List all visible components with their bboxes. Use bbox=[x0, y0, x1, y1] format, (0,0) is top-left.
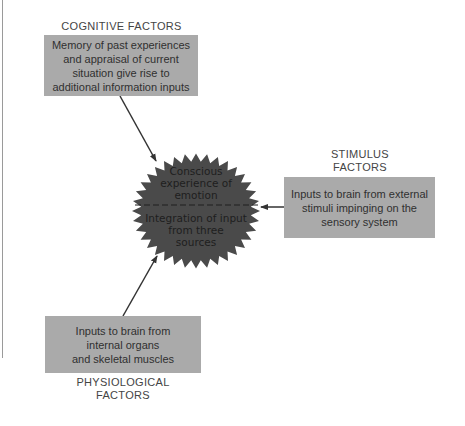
cognitive-line: additional information inputs bbox=[52, 80, 190, 94]
stimulus-title-line: FACTORS bbox=[320, 161, 400, 174]
stimulus-factors-box: Inputs to brain from external stimuli im… bbox=[284, 177, 435, 238]
cognitive-line: and appraisal of current bbox=[52, 52, 190, 66]
center-top-line: emotion bbox=[146, 189, 246, 201]
cognitive-line: Memory of past experiences bbox=[52, 38, 190, 52]
cognitive-factors-box: Memory of past experiences and appraisal… bbox=[44, 35, 198, 96]
physiological-line: Inputs to brain from bbox=[72, 324, 174, 338]
center-bottom-label: Integration of input from three sources bbox=[136, 212, 256, 248]
physiological-title-line: PHYSIOLOGICAL bbox=[70, 376, 176, 389]
stimulus-line: Inputs to brain from external bbox=[291, 187, 428, 201]
physiological-line: and skeletal muscles bbox=[72, 352, 174, 366]
physiological-title-line: FACTORS bbox=[70, 389, 176, 402]
cognitive-factors-title: COGNITIVE FACTORS bbox=[44, 20, 199, 33]
stimulus-line: stimuli impinging on the bbox=[291, 201, 428, 215]
arrow-cognitive-to-center bbox=[120, 96, 156, 161]
center-bottom-line: from three bbox=[136, 224, 256, 236]
physiological-line: internal organs bbox=[72, 338, 174, 352]
stimulus-factors-title: STIMULUS FACTORS bbox=[320, 148, 400, 174]
physiological-factors-title: PHYSIOLOGICAL FACTORS bbox=[70, 376, 176, 402]
physiological-factors-box: Inputs to brain from internal organs and… bbox=[45, 316, 201, 373]
center-top-line: Conscious bbox=[146, 165, 246, 177]
cognitive-line: situation give rise to bbox=[52, 66, 190, 80]
stimulus-line: sensory system bbox=[291, 215, 428, 229]
center-top-line: experience of bbox=[146, 177, 246, 189]
center-top-label: Conscious experience of emotion bbox=[146, 165, 246, 201]
arrow-physiological-to-center bbox=[123, 256, 157, 316]
center-bottom-line: sources bbox=[136, 236, 256, 248]
center-bottom-line: Integration of input bbox=[136, 212, 256, 224]
stimulus-title-line: STIMULUS bbox=[320, 148, 400, 161]
